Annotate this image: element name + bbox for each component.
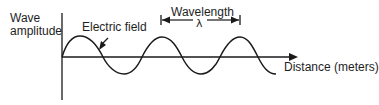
- y-axis-label: Wave amplitude: [10, 12, 62, 38]
- x-axis-label: Distance (meters): [284, 61, 379, 74]
- electric-field-wave: [62, 36, 276, 74]
- electric-field-label: Electric field: [82, 21, 147, 34]
- y-axis-label-line2: amplitude: [10, 25, 62, 38]
- wavelength-left-arrow-icon: [162, 17, 170, 24]
- electric-field-pointer-line: [103, 38, 108, 43]
- electric-field-pointer-icon: [99, 41, 106, 50]
- lambda-symbol: λ: [196, 17, 203, 30]
